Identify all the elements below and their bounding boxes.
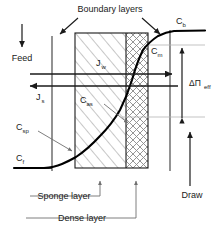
dense-layer-label: Dense layer bbox=[58, 213, 106, 223]
salt-flux-base: J bbox=[36, 92, 41, 102]
salt-flux-sub: s bbox=[42, 98, 45, 104]
boundary-layers-label: Boundary layers bbox=[77, 4, 143, 14]
concentration-polarization-diagram: Boundary layers Feed Draw Sponge layer D… bbox=[0, 0, 220, 228]
c-as-sub: as bbox=[87, 101, 93, 107]
draw-label: Draw bbox=[181, 190, 203, 200]
water-flux-sub: w bbox=[101, 64, 107, 70]
dense-layer-region bbox=[126, 33, 148, 168]
sponge-layer-label: Sponge layer bbox=[37, 191, 90, 201]
c-sp-sub: sp bbox=[23, 128, 30, 134]
osmotic-pressure-sub: eff bbox=[204, 84, 211, 90]
feed-label: Feed bbox=[12, 53, 33, 63]
c-membrane-sub: m bbox=[158, 52, 163, 58]
figure-root: Boundary layers Feed Draw Sponge layer D… bbox=[0, 0, 220, 228]
osmotic-pressure-base: ΔΠ bbox=[189, 78, 201, 88]
water-flux-base: J bbox=[96, 58, 101, 68]
